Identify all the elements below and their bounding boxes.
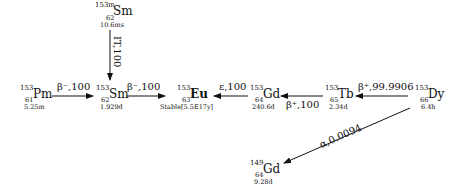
- half-life: 5.25m: [24, 104, 45, 111]
- half-life: 10.6ms: [100, 22, 124, 29]
- decay-label-sm-eu: β⁻,100: [127, 82, 160, 92]
- decay-label-it: IT,100: [112, 36, 122, 67]
- element-symbol: Sm: [113, 5, 133, 17]
- element-symbol: Gd: [263, 88, 280, 100]
- decay-label-dy-tb: β⁺,99.9906: [358, 82, 414, 92]
- mass-number: 153: [415, 85, 428, 92]
- decay-label-gd-eu: ε,100: [219, 82, 246, 92]
- mass-number: 149: [250, 160, 263, 167]
- element-symbol: Eu: [190, 88, 208, 100]
- half-life: 2.34d: [329, 104, 348, 111]
- decay-label-tb-gd: β⁺,100: [286, 100, 319, 110]
- half-life: 1.929d: [100, 104, 123, 111]
- decay-label-pm-sm: β⁻,100: [57, 82, 90, 92]
- mass-number: 153: [177, 85, 190, 92]
- mass-number: 153: [20, 85, 33, 92]
- half-life: 240.6d: [252, 104, 275, 111]
- element-symbol: Dy: [428, 88, 444, 100]
- half-life: 9.28d: [254, 179, 273, 186]
- element-symbol: Gd: [263, 163, 280, 175]
- element-symbol: Tb: [338, 88, 354, 100]
- mass-number: 153m: [95, 2, 115, 9]
- mass-number: 153: [325, 85, 338, 92]
- element-symbol: Sm: [109, 88, 129, 100]
- mass-number: 153: [96, 85, 109, 92]
- element-symbol: Pm: [33, 88, 52, 100]
- half-life: 6.4h: [421, 104, 436, 111]
- decay-arrows: [0, 0, 465, 193]
- mass-number: 153: [250, 85, 263, 92]
- half-life: Stable[5.5E17y]: [160, 104, 213, 111]
